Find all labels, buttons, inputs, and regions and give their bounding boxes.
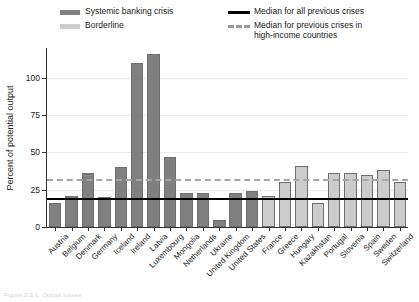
x-tick [269,227,270,231]
legend-swatch-systemic [60,10,80,15]
y-tick-label: 100 [26,73,40,83]
x-tick [170,227,171,231]
plot-area: 0255075100 [46,48,408,228]
bar[interactable] [312,203,324,227]
x-tick [121,227,122,231]
bar[interactable] [213,220,225,227]
legend-column-left: Systemic banking crisis Borderline [60,6,173,34]
legend-swatch-borderline [60,24,80,29]
x-tick [88,227,89,231]
bar-slot [326,48,342,227]
bar-slot [244,48,260,227]
chart-legend: Systemic banking crisis Borderline Media… [60,6,410,48]
y-tick-label: 25 [31,185,40,195]
legend-line-solid-icon [228,11,250,14]
figure-caption: Figure 2.3.1. Output losses [4,292,81,298]
y-tick [42,152,46,153]
x-tick [285,227,286,231]
y-tick [42,115,46,116]
legend-label-median-all: Median for all previous crises [254,6,364,16]
bar-slot [47,48,63,227]
bar[interactable] [98,197,110,227]
bar[interactable] [164,157,176,227]
x-tick [137,227,138,231]
bar[interactable] [82,173,94,227]
x-tick [219,227,220,231]
x-tick [186,227,187,231]
bar[interactable] [344,173,356,227]
bar[interactable] [65,196,77,227]
legend-column-right: Median for all previous crises Median fo… [228,6,364,44]
x-tick [72,227,73,231]
x-tick [383,227,384,231]
y-axis-title: Percent of potential output [4,48,16,228]
y-tick-label: 50 [31,147,40,157]
legend-label-median-high-income: Median for previous crises in high-incom… [254,20,362,40]
bar-slot [113,48,129,227]
x-axis-labels: AustriaBelgiumDenmarkGermanyIcelandIrela… [46,232,408,294]
legend-line-dashed-icon [228,25,250,28]
output-losses-chart: Systemic banking crisis Borderline Media… [0,0,419,302]
x-tick [367,227,368,231]
bar-series [47,48,408,227]
bar-slot [392,48,408,227]
bar-slot [310,48,326,227]
y-tick-label: 0 [35,222,40,232]
bar-slot [260,48,276,227]
y-tick-label: 75 [31,110,40,120]
bar-slot [145,48,161,227]
bar[interactable] [262,196,274,227]
legend-item-systemic: Systemic banking crisis [60,6,173,16]
median-line-all-crises [47,198,408,200]
y-tick [42,227,46,228]
bar-slot [63,48,79,227]
x-tick [318,227,319,231]
x-axis-line [46,227,408,228]
legend-label-borderline: Borderline [85,20,124,30]
bar[interactable] [279,182,291,227]
bar-slot [129,48,145,227]
bar[interactable] [131,63,143,227]
bar-slot [211,48,227,227]
bar[interactable] [246,191,258,227]
median-line-high-income [47,179,408,181]
x-tick [236,227,237,231]
x-tick [301,227,302,231]
bar-slot [293,48,309,227]
bar-slot [80,48,96,227]
legend-item-median-high-income: Median for previous crises in high-incom… [228,20,364,40]
bar-slot [277,48,293,227]
bar-slot [359,48,375,227]
bar-slot [178,48,194,227]
legend-item-borderline: Borderline [60,20,173,30]
bar[interactable] [295,166,307,227]
bar[interactable] [361,175,373,227]
bar-slot [375,48,391,227]
x-tick [334,227,335,231]
bar-slot [195,48,211,227]
x-tick [252,227,253,231]
bar-slot [162,48,178,227]
x-tick [351,227,352,231]
bar-slot [342,48,358,227]
bar[interactable] [147,54,159,227]
legend-item-median-all: Median for all previous crises [228,6,364,16]
bar[interactable] [394,182,406,227]
x-tick [400,227,401,231]
bar-slot [228,48,244,227]
y-tick [42,78,46,79]
x-tick [154,227,155,231]
x-tick [203,227,204,231]
x-tick [104,227,105,231]
x-tick [55,227,56,231]
bar-slot [96,48,112,227]
bar[interactable] [328,173,340,227]
y-tick [42,190,46,191]
legend-label-systemic: Systemic banking crisis [85,6,173,16]
y-axis-title-text: Percent of potential output [5,85,15,190]
bar[interactable] [49,203,61,227]
